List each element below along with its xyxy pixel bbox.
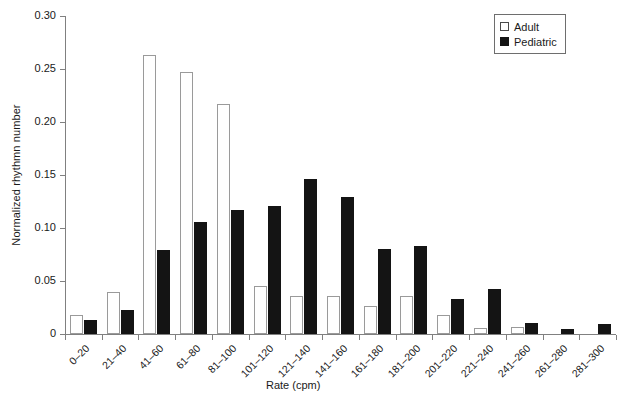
x-axis-tick (432, 335, 433, 340)
bar-pediatric-5 (268, 206, 281, 334)
x-axis-title: Rate (cpm) (266, 379, 320, 391)
bar-adult-5 (254, 286, 267, 334)
x-axis-tick (285, 335, 286, 340)
x-axis-tick (579, 335, 580, 340)
x-axis-tick (102, 335, 103, 340)
x-axis-tick (322, 335, 323, 340)
legend-item-adult: Adult (500, 19, 557, 34)
bar-adult-0 (70, 315, 83, 334)
y-axis-tick-label: 0.05 (16, 275, 56, 286)
y-axis-tick-label: 0.15 (16, 169, 56, 180)
bar-adult-11 (474, 328, 487, 334)
x-axis-tick (212, 335, 213, 340)
bar-adult-6 (290, 296, 303, 334)
bar-pediatric-14 (598, 324, 611, 334)
bar-pediatric-11 (488, 289, 501, 334)
bar-pediatric-1 (121, 310, 134, 334)
bar-pediatric-9 (414, 246, 427, 334)
y-axis-tick-label: 0 (16, 328, 56, 339)
bar-adult-9 (400, 296, 413, 334)
bar-adult-4 (217, 104, 230, 334)
x-axis-tick (616, 335, 617, 340)
bar-adult-2 (143, 55, 156, 334)
bar-adult-12 (511, 327, 524, 334)
x-axis-line (65, 334, 616, 335)
bar-adult-3 (180, 72, 193, 334)
y-axis-tick-label: 0.30 (16, 10, 56, 21)
y-axis-tick-label: 0.25 (16, 63, 56, 74)
x-axis-tick (175, 335, 176, 340)
x-axis-tick (359, 335, 360, 340)
bar-pediatric-8 (378, 249, 391, 334)
x-axis-tick (65, 335, 66, 340)
bar-adult-10 (437, 315, 450, 334)
x-axis-tick (138, 335, 139, 340)
bar-pediatric-3 (194, 222, 207, 334)
bar-chart: Normalized rhythmn number 0.300.250.200.… (0, 0, 632, 399)
y-axis-tick-label: 0.10 (16, 222, 56, 233)
x-axis-tick (506, 335, 507, 340)
bar-adult-8 (364, 306, 377, 334)
y-axis-tick-label: 0.20 (16, 116, 56, 127)
x-axis-tick (249, 335, 250, 340)
plot-area (65, 16, 616, 334)
bar-pediatric-12 (525, 323, 538, 334)
bar-adult-7 (327, 296, 340, 334)
bar-pediatric-0 (84, 320, 97, 334)
legend-label-pediatric: Pediatric (514, 36, 557, 48)
legend-label-adult: Adult (514, 21, 539, 33)
bar-pediatric-2 (157, 250, 170, 334)
x-axis-tick (469, 335, 470, 340)
bar-pediatric-10 (451, 299, 464, 334)
bar-adult-1 (107, 292, 120, 334)
x-axis-tick (543, 335, 544, 340)
bar-pediatric-4 (231, 210, 244, 334)
x-axis-tick (396, 335, 397, 340)
bar-pediatric-6 (304, 179, 317, 334)
open-square-icon (500, 22, 509, 31)
chart-legend: Adult Pediatric (494, 14, 566, 54)
bar-pediatric-7 (341, 197, 354, 334)
bar-pediatric-13 (561, 329, 574, 334)
legend-item-pediatric: Pediatric (500, 34, 557, 49)
filled-square-icon (500, 37, 509, 46)
